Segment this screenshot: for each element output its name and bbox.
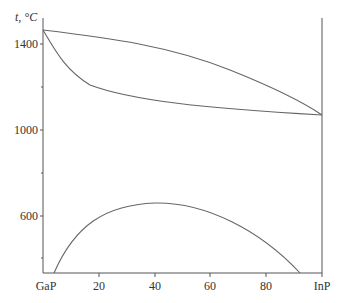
liquidus-curve xyxy=(43,30,322,115)
miscibility-gap-curve xyxy=(54,203,300,273)
x-tick-label: 20 xyxy=(93,279,105,294)
y-tick-label: 1400 xyxy=(0,37,38,52)
phase-diagram-plot xyxy=(0,0,344,303)
x-tick-label: 80 xyxy=(260,279,272,294)
x-tick-label: 60 xyxy=(204,279,216,294)
x-tick-label: GaP xyxy=(36,279,57,294)
x-tick-label: 40 xyxy=(149,279,161,294)
x-ticks xyxy=(99,273,322,277)
y-axis-label: t, °C xyxy=(15,10,37,25)
x-tick-label: InP xyxy=(314,279,331,294)
solidus-curve xyxy=(43,30,322,115)
y-tick-label: 1000 xyxy=(0,123,38,138)
y-tick-label: 600 xyxy=(0,209,38,224)
